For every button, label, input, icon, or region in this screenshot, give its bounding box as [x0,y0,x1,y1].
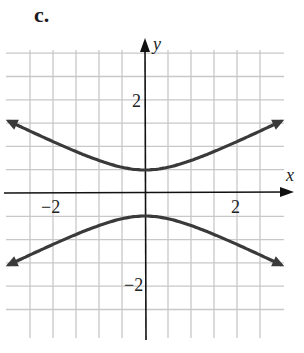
y-axis-label: y [151,34,161,54]
axes [4,38,294,340]
y-axis-arrow-icon [140,38,150,52]
y-tick-label: −2 [124,275,143,295]
x-tick-label: 2 [231,197,240,217]
x-axis-arrow-icon [280,187,294,197]
y-tick-label: 2 [132,91,141,111]
x-axis-label: x [285,165,294,185]
x-tick-label: −2 [41,197,60,217]
hyperbola-chart: −222−2xy [0,0,304,353]
y-axis [145,48,146,340]
